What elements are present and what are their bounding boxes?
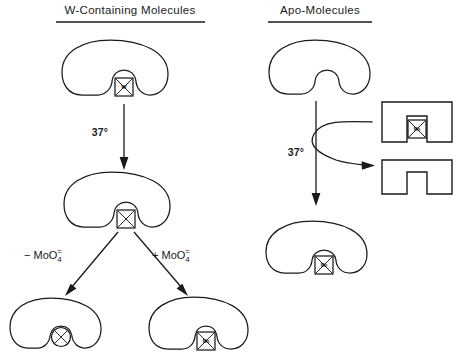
branch-left-reagent-subscript: 4	[57, 255, 62, 264]
site-label-mo-block: Mo	[414, 127, 421, 132]
branch-left-reagent-sign: − MoO	[24, 249, 58, 261]
reaction-scheme-diagram: W-Containing Molecules Apo-Molecules W 3…	[0, 0, 461, 357]
branch-arrow-left-head	[65, 284, 76, 296]
branch-right-reagent-sign: + MoO	[152, 249, 186, 261]
binding-site-mo-right-panel: Mo	[315, 256, 333, 274]
figure-canvas: W-Containing Molecules Apo-Molecules W 3…	[0, 0, 461, 357]
left-vertical-arrow-head	[120, 157, 129, 170]
right-molecule-top-group	[269, 40, 370, 94]
right-temperature-label: 37°	[288, 146, 304, 158]
binding-site-empty	[117, 210, 135, 228]
site-label-w: W	[121, 84, 127, 90]
exchange-curve-arrow-group	[312, 121, 375, 169]
site-label-mo-right-panel: Mo	[321, 263, 328, 268]
branch-arrow-left-group: − MoO4=	[24, 232, 118, 296]
left-vertical-arrow-group: 37°	[92, 104, 129, 170]
mo-loaded-block-group: Mo	[382, 102, 452, 142]
right-panel-title: Apo-Molecules	[280, 4, 360, 16]
left-panel-title-group: W-Containing Molecules	[56, 4, 205, 22]
branch-left-reagent-superscript: =	[57, 247, 62, 256]
left-molecule-bottom-left-group	[10, 298, 101, 348]
right-molecule-bottom-group: Mo	[266, 221, 367, 274]
block-outline-empty	[382, 160, 452, 194]
branch-right-reagent-label: + MoO4=	[152, 247, 190, 265]
exchange-curve-path	[312, 121, 372, 165]
empty-block-group	[382, 160, 452, 194]
binding-site-inactivated	[52, 328, 71, 347]
binding-site-w: W	[115, 78, 133, 96]
right-panel-title-group: Apo-Molecules	[268, 4, 372, 22]
branch-left-reagent-label: − MoO4=	[24, 247, 62, 265]
branch-arrow-left-shaft	[71, 232, 118, 288]
branch-right-reagent-superscript: =	[185, 247, 190, 256]
branch-arrow-right-head	[177, 284, 188, 296]
site-label-mo-left-panel: Mo	[203, 339, 210, 344]
molecule-body-apo	[269, 40, 370, 94]
branch-right-reagent-subscript: 4	[185, 255, 190, 264]
right-vertical-arrow-group: 37°	[288, 101, 321, 206]
left-molecule-bottom-right-group: Mo	[149, 297, 248, 350]
left-molecule-middle-group	[64, 172, 170, 228]
binding-site-mo-block: Mo	[408, 120, 426, 138]
binding-site-mo-left-panel: Mo	[197, 332, 215, 350]
right-vertical-arrow-head	[312, 193, 321, 206]
branch-arrow-right-group: + MoO4=	[134, 232, 190, 296]
left-panel-title: W-Containing Molecules	[64, 4, 195, 16]
exchange-curve-arrow-head	[362, 161, 376, 170]
left-molecule-top-group: W	[62, 40, 168, 96]
left-temperature-label: 37°	[92, 126, 108, 138]
